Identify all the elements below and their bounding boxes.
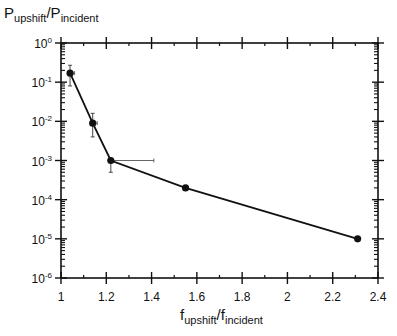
x-tick-label: 2 bbox=[284, 290, 291, 304]
chart-plot: 11.21.41.61.822.22.410010-110-210-310-41… bbox=[0, 0, 397, 336]
x-tick-label: 1.8 bbox=[234, 290, 251, 304]
y-tick-label: 10-1 bbox=[32, 75, 53, 90]
x-axis-label: fupshift/fincident bbox=[180, 306, 263, 326]
x-tick-label: 1.4 bbox=[143, 290, 160, 304]
y-tick-label: 10-2 bbox=[32, 114, 53, 129]
y-tick-label: 10-5 bbox=[32, 232, 53, 247]
data-point bbox=[66, 70, 73, 77]
data-point bbox=[89, 120, 96, 127]
data-point bbox=[182, 184, 189, 191]
y-tick-label: 10-4 bbox=[32, 193, 53, 208]
x-tick-label: 1.6 bbox=[189, 290, 206, 304]
y-tick-label: 10-6 bbox=[32, 271, 53, 286]
x-tick-label: 2.2 bbox=[324, 290, 341, 304]
x-tick-label: 1.2 bbox=[98, 290, 115, 304]
x-tick-label: 1 bbox=[58, 290, 65, 304]
y-tick-label: 10-3 bbox=[32, 154, 53, 169]
data-point bbox=[107, 157, 114, 164]
x-tick-label: 2.4 bbox=[370, 290, 387, 304]
data-line bbox=[70, 73, 358, 239]
y-tick-label: 100 bbox=[34, 36, 52, 51]
data-point bbox=[354, 235, 361, 242]
